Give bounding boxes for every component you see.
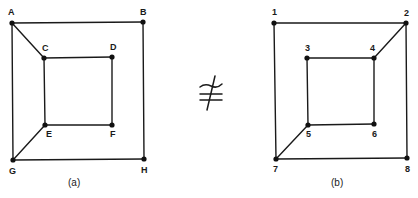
edge-2-4 <box>374 23 406 58</box>
edge-6-5 <box>308 124 374 125</box>
graph-a: ABCDEFGH(a) <box>8 7 148 188</box>
vertex-F <box>109 122 114 127</box>
vertex-G <box>10 157 15 162</box>
vertex-label: 5 <box>306 129 311 139</box>
vertex-label: B <box>140 7 147 17</box>
vertex-label: F <box>110 129 116 139</box>
vertex-label: G <box>9 166 16 176</box>
graph-caption-b: (b) <box>331 177 343 188</box>
vertex-B <box>140 19 145 24</box>
vertex-label: E <box>46 129 52 139</box>
vertex-8 <box>404 155 409 160</box>
vertex-label: 3 <box>305 43 310 53</box>
edge-7-1 <box>274 23 276 159</box>
vertex-label: A <box>8 7 15 17</box>
edge-G-A <box>12 23 13 160</box>
edge-C-D <box>44 57 112 58</box>
vertex-label: 7 <box>273 164 278 174</box>
vertex-label: C <box>42 43 49 53</box>
vertex-4 <box>371 55 376 60</box>
edge-5-3 <box>307 58 308 125</box>
vertex-6 <box>371 121 376 126</box>
vertex-7 <box>273 156 278 161</box>
edge-H-G <box>13 159 144 160</box>
vertex-C <box>41 55 46 60</box>
vertex-label: H <box>141 165 148 175</box>
edge-8-7 <box>276 158 407 159</box>
edge-A-C <box>12 23 44 58</box>
vertex-A <box>9 20 14 25</box>
vertex-label: 8 <box>405 164 410 174</box>
edge-2-8 <box>406 23 407 158</box>
graph-caption-a: (a) <box>68 177 80 188</box>
vertex-label: 6 <box>372 129 377 139</box>
edge-E-C <box>44 58 45 125</box>
graph-b: 12345678(b) <box>271 7 410 188</box>
vertex-1 <box>271 20 276 25</box>
vertex-label: D <box>110 42 117 52</box>
vertex-5 <box>305 122 310 127</box>
not-isomorphic-symbol <box>200 76 222 110</box>
vertex-3 <box>304 55 309 60</box>
vertex-label: 1 <box>272 7 277 17</box>
vertex-label: 2 <box>404 8 409 18</box>
vertex-E <box>42 122 47 127</box>
graph-isomorphism-diagram: ABCDEFGH(a) 12345678(b) <box>0 0 418 198</box>
vertex-D <box>109 54 114 59</box>
vertex-2 <box>403 20 408 25</box>
edge-B-H <box>143 22 144 159</box>
edge-A-B <box>12 22 143 23</box>
edge-7-5 <box>276 125 308 159</box>
vertex-H <box>141 156 146 161</box>
edge-G-E <box>13 125 45 160</box>
vertex-label: 4 <box>370 43 375 53</box>
